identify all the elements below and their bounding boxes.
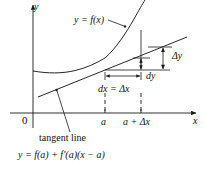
tick-label-a: a [101,117,106,127]
function-curve [33,0,145,73]
dy-label: dy [146,71,155,81]
x-axis-label: x [193,116,197,126]
tick-label-a-plus-dx: a + Δx [123,117,150,127]
differentials-figure: y x 0 y = f(x) Δy dy dx = Δx a a + Δx ta… [0,0,205,170]
curve-label: y = f(x) [74,15,104,25]
tangent-line-label: tangent line [39,133,86,143]
curve-label-leader [108,20,124,26]
tangent-label-leader [57,91,70,132]
tangent-label-leader-dot [55,89,57,91]
tangent-formula: y = f(a) + f′(a)(x − a) [18,150,105,160]
curve-label-leader-dot [124,25,126,27]
origin-label: 0 [22,115,28,126]
delta-y-label: Δy [172,51,182,61]
dx-label: dx = Δx [98,84,130,94]
y-axis-label: y [34,2,38,12]
